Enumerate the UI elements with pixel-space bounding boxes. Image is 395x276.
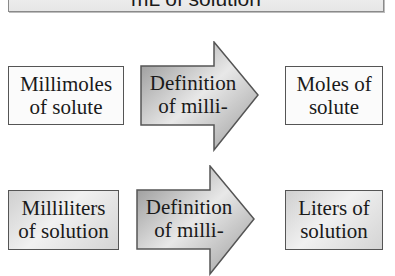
- box-label: Moles of solute: [296, 73, 371, 119]
- banner-label: mL of solution: [131, 0, 261, 10]
- millimoles-of-solute-box: Millimoles of solute: [8, 66, 124, 125]
- box-label: Millimoles of solute: [20, 73, 112, 119]
- solution-volume-banner: mL of solution: [8, 0, 384, 12]
- definition-of-milli-label: Definition of milli-: [141, 72, 245, 118]
- box-label: Liters of solution: [298, 197, 370, 243]
- milliliters-of-solution-box: Milliliters of solution: [8, 190, 119, 250]
- box-label: Milliliters of solution: [18, 197, 108, 243]
- liters-of-solution-box: Liters of solution: [285, 190, 383, 250]
- definition-of-milli-label: Definition of milli-: [137, 196, 241, 242]
- moles-of-solute-box: Moles of solute: [285, 66, 383, 125]
